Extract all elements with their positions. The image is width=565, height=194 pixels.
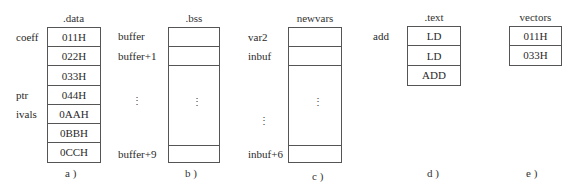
symbol-label-coeff: coeff [16,31,38,43]
symbol-label-var2: var2 [248,31,268,43]
memory-cell [169,28,219,47]
symbol-label-inbuf: inbuf [248,50,271,62]
symbol-label-inbuf-plus-6: inbuf+6 [248,148,283,160]
section-title-vectors: vectors [509,11,562,23]
vertical-ellipsis-icon: ⋮ [313,100,317,103]
memory-block-text: LD LD ADD [407,26,461,86]
memory-cell: ADD [408,66,460,85]
section-title-text: .text [407,11,461,23]
memory-cell: LD [408,46,460,66]
memory-cell: 011H [510,27,561,46]
symbol-label-buffer-plus-1: buffer+1 [118,50,156,62]
section-title-bss: .bss [168,12,220,24]
vertical-ellipsis-icon: ⋮ [132,99,136,102]
memory-cell: 033H [48,66,100,86]
vertical-ellipsis-icon: ⋮ [192,100,196,103]
memory-cell: 0CCH [48,143,100,162]
memory-cell [169,146,219,162]
memory-cell: 0AAH [48,105,100,124]
memory-block-data: 011H 022H 033H 044H 0AAH 0BBH 0CCH [47,27,101,163]
symbol-label-buffer: buffer [118,30,145,42]
memory-block-newvars: ⋮ [288,27,342,163]
section-title-data: .data [47,12,100,24]
memory-cell: LD [408,27,460,46]
symbol-label-ptr: ptr [16,89,28,101]
memory-cell: 044H [48,86,100,105]
memory-cell: 022H [48,47,100,66]
symbol-label-buffer-plus-9: buffer+9 [118,148,156,160]
memory-cell [289,47,341,66]
caption-e: e ) [526,167,537,179]
memory-cell [289,146,341,162]
caption-a: a ) [65,167,76,179]
memory-cell [289,28,341,47]
vertical-ellipsis-icon: ⋮ [259,119,263,122]
memory-cell: 011H [48,28,100,47]
caption-c: c ) [312,170,323,182]
symbol-label-ivals: ivals [16,108,37,120]
caption-b: b ) [185,167,197,179]
memory-cell: 0BBH [48,124,100,143]
memory-cell [169,47,219,66]
memory-block-vectors: 011H 033H [509,26,562,66]
caption-d: d ) [427,167,439,179]
memory-block-bss: ⋮ [168,27,220,163]
symbol-label-add: add [373,30,389,42]
memory-cell: 033H [510,46,561,65]
section-title-newvars: newvars [288,12,342,24]
